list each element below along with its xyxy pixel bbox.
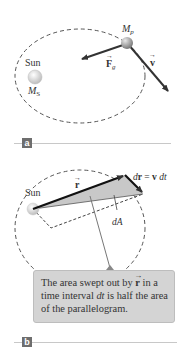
callout-text-1: The area swept out by xyxy=(41,277,135,288)
planet-mass-label: Mp xyxy=(121,23,134,36)
area-label: dA xyxy=(112,217,123,227)
velocity-arrow xyxy=(128,44,168,91)
panel-tag-b: b xyxy=(22,337,32,347)
sun-label-a: Sun xyxy=(25,57,41,68)
callout-dt: dt xyxy=(96,290,104,301)
explanation-callout: The area swept out by r in a time interv… xyxy=(33,270,175,323)
velocity-vector-accent: → xyxy=(149,51,156,59)
sun-mass-label: MS xyxy=(27,85,40,98)
panel-rule-b xyxy=(14,342,22,343)
radius-vector-accent: → xyxy=(74,174,81,182)
sun-icon xyxy=(28,70,42,84)
planet-icon xyxy=(121,37,133,49)
panel-a: Sun MS Mp Fg → v → xyxy=(15,23,168,123)
panel-rule-a-right xyxy=(32,143,171,144)
sun-label-b: Sun xyxy=(25,187,41,198)
panel-b: Sun r → dr = v dt dA xyxy=(15,170,167,286)
panel-rule-a xyxy=(14,143,22,144)
force-vector-accent: → xyxy=(106,52,113,60)
panel-tag-a: a xyxy=(22,138,32,148)
callout-vector-r: r xyxy=(135,277,140,288)
gravity-force-arrow xyxy=(82,44,126,59)
panel-rule-b-right xyxy=(32,342,177,343)
dr-equation-label: dr = v dt xyxy=(133,172,167,182)
